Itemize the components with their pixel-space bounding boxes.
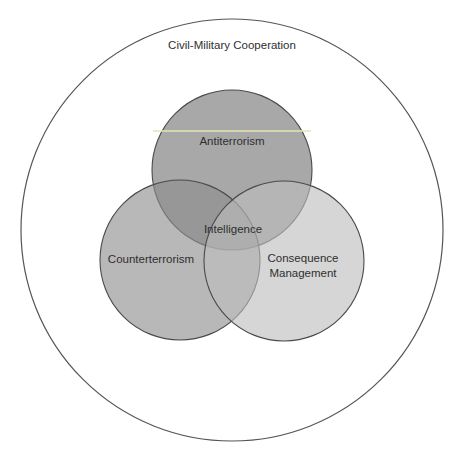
label-management: Management: [269, 267, 337, 279]
label-counterterrorism: Counterterrorism: [108, 253, 194, 265]
label-antiterrorism: Antiterrorism: [199, 135, 264, 147]
label-intelligence: Intelligence: [204, 223, 262, 235]
venn-diagram: Civil-Military Cooperation Antiterrorism…: [0, 0, 463, 461]
label-civil-military-cooperation: Civil-Military Cooperation: [168, 39, 296, 51]
label-consequence: Consequence: [268, 252, 339, 264]
